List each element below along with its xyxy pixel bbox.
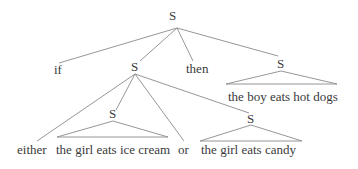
- node-root-s: S: [169, 9, 176, 22]
- leaf-girl-candy: the girl eats candy: [201, 143, 296, 156]
- node-either: either: [17, 143, 47, 156]
- leaf-girl-icecream: the girl eats ice cream: [56, 143, 170, 156]
- node-left-s: S: [109, 107, 116, 120]
- node-if: if: [54, 63, 62, 76]
- node-right-s: S: [277, 57, 284, 70]
- node-or: or: [178, 143, 189, 156]
- node-lower-right-s: S: [247, 112, 254, 125]
- node-mid-s: S: [131, 60, 138, 73]
- node-then: then: [186, 62, 208, 75]
- leaf-boy-hotdogs: the boy eats hot dogs: [228, 90, 338, 103]
